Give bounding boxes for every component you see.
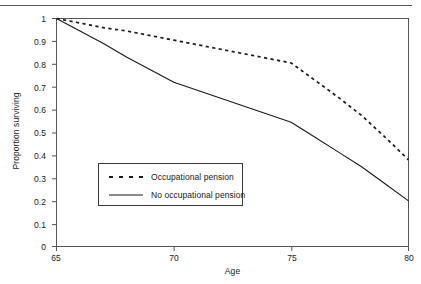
- series-line-occupational-pension: [57, 19, 409, 160]
- y-tick-label-0.1: 0.1: [20, 220, 46, 230]
- legend-label-no-occupational-pension: No occupational pension: [151, 190, 245, 200]
- legend-label-occupational-pension: Occupational pension: [151, 172, 234, 182]
- x-axis-title: Age: [56, 266, 409, 276]
- x-tick-marks: [57, 247, 409, 251]
- y-axis-title: Proportion surviving: [11, 76, 21, 186]
- x-tick-label-75: 75: [279, 253, 305, 263]
- legend-swatch-dashed-icon: [108, 172, 144, 182]
- x-tick-label-65: 65: [43, 253, 69, 263]
- y-tick-label-1: 1: [20, 14, 46, 24]
- y-tick-label-0.6: 0.6: [20, 105, 46, 115]
- y-tick-label-0.5: 0.5: [20, 128, 46, 138]
- legend-swatch-solid-icon: [108, 190, 144, 200]
- y-tick-label-0: 0: [20, 242, 46, 252]
- y-tick-label-0.8: 0.8: [20, 60, 46, 70]
- y-tick-label-0.4: 0.4: [20, 151, 46, 161]
- chart-legend: Occupational pension No occupational pen…: [98, 163, 243, 206]
- x-tick-label-70: 70: [161, 253, 187, 263]
- y-tick-marks: [52, 19, 56, 247]
- plot-canvas: [0, 0, 421, 284]
- legend-item-occupational-pension: Occupational pension: [99, 167, 242, 187]
- chart-figure: 1 0.9 0.8 0.7 0.6 0.5 0.4 0.3 0.2 0.1 0 …: [0, 0, 421, 284]
- y-tick-label-0.7: 0.7: [20, 83, 46, 93]
- y-tick-label-0.9: 0.9: [20, 37, 46, 47]
- x-tick-label-80: 80: [396, 253, 421, 263]
- y-tick-label-0.2: 0.2: [20, 197, 46, 207]
- y-tick-label-0.3: 0.3: [20, 174, 46, 184]
- legend-item-no-occupational-pension: No occupational pension: [99, 185, 242, 205]
